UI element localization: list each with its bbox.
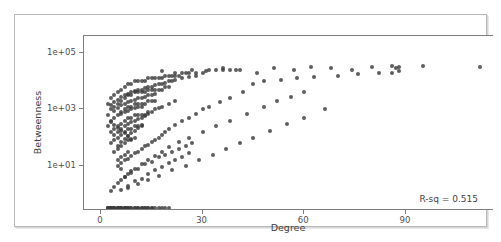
scatter-point [377,71,381,75]
scatter-point [160,165,164,169]
scatter-point [207,105,211,109]
scatter-point [180,119,184,123]
scatter-point [302,90,306,94]
scatter-point [119,167,123,171]
scatter-point [123,175,127,179]
scatter-point [218,100,222,104]
scatter-point [116,144,120,148]
scatter-point [262,79,266,83]
scatter-point [184,144,188,148]
scatter-point [241,90,245,94]
scatter-point [167,127,171,131]
scatter-point [129,171,133,175]
y-tick-label: 1e+01 [47,160,76,170]
scatter-point [153,92,157,96]
y-axis: 1e+011e+031e+05 [15,35,83,210]
scatter-point [173,99,177,103]
scatter-point [136,182,140,186]
figure-root: Betweenness 1e+011e+031e+05 0306090 Degr… [0,0,501,242]
scatter-point [136,167,140,171]
scatter-point [302,116,306,120]
scatter-point [140,123,144,127]
scatter-point [157,174,161,178]
scatter-point [143,162,147,166]
scatter-point [228,68,232,72]
scatter-point [123,141,127,145]
scatter-point [187,136,191,140]
scatter-point [163,130,167,134]
scatter-point [309,65,313,69]
scatter-point [201,130,205,134]
scatter-point [190,141,194,145]
scatter-point [390,71,394,75]
x-tick-mark [202,210,203,214]
rsq-annotation: R-sq = 0.515 [419,194,478,204]
scatter-point [238,141,242,145]
scatter-point [279,78,283,82]
scatter-point [126,184,130,188]
scatter-point [356,72,360,76]
scatter-point [133,136,137,140]
scatter-point [255,71,259,75]
y-tick-label: 1e+03 [47,103,76,113]
x-tick-mark [303,210,304,214]
scatter-point [173,123,177,127]
scatter-point [160,105,164,109]
scatter-point [163,153,167,157]
x-axis-title: Degree [83,222,493,233]
scatter-point [187,75,191,79]
scatter-point [204,69,208,73]
scatter-point [112,93,116,97]
scatter-point [187,151,191,155]
scatter-point [350,68,354,72]
scatter-point [478,65,482,69]
scatter-point [112,185,116,189]
scatter-point [214,124,218,128]
scatter-point [272,66,276,70]
scatter-point [167,161,171,165]
scatter-point [292,68,296,72]
scatter-point [170,150,174,154]
scatter-point [214,68,218,72]
scatter-point [370,65,374,69]
scatter-point [146,172,150,176]
scatter-point [150,160,154,164]
scatter-point [146,178,150,182]
scatter-point [194,112,198,116]
scatter-point [397,69,401,73]
scatter-point [177,147,181,151]
scatter-point [116,181,120,185]
scatter-point [211,153,215,157]
scatter-point [228,119,232,123]
scatter-point [153,168,157,172]
scatter-point [153,99,157,103]
scatter-point [109,189,113,193]
scatter-point [160,69,164,73]
scatter-point [106,113,110,117]
scatter-point [170,168,174,172]
y-tick-label: 1e+05 [47,47,76,57]
scatter-point [184,164,188,168]
scatter-point [329,66,333,70]
scatter-point [251,136,255,140]
scatter-point [245,112,249,116]
scatter-point [323,107,327,111]
x-tick-mark [100,210,101,214]
scatter-point [289,95,293,99]
scatter-point [421,64,425,68]
scatter-point [251,82,255,86]
scatter-point [157,155,161,159]
scatter-points-layer [84,36,493,210]
scatter-point [119,161,123,165]
scatter-point [187,116,191,120]
scatter-point [194,74,198,78]
scatter-point [197,158,201,162]
scatter-point [336,74,340,78]
scatter-point [262,105,266,109]
scatter-point [275,99,279,103]
figure-outer-frame: Betweenness 1e+011e+031e+05 0306090 Degr… [14,14,487,227]
scatter-point [167,85,171,89]
scatter-point [167,145,171,149]
scatter-point [180,76,184,80]
scatter-point [285,122,289,126]
